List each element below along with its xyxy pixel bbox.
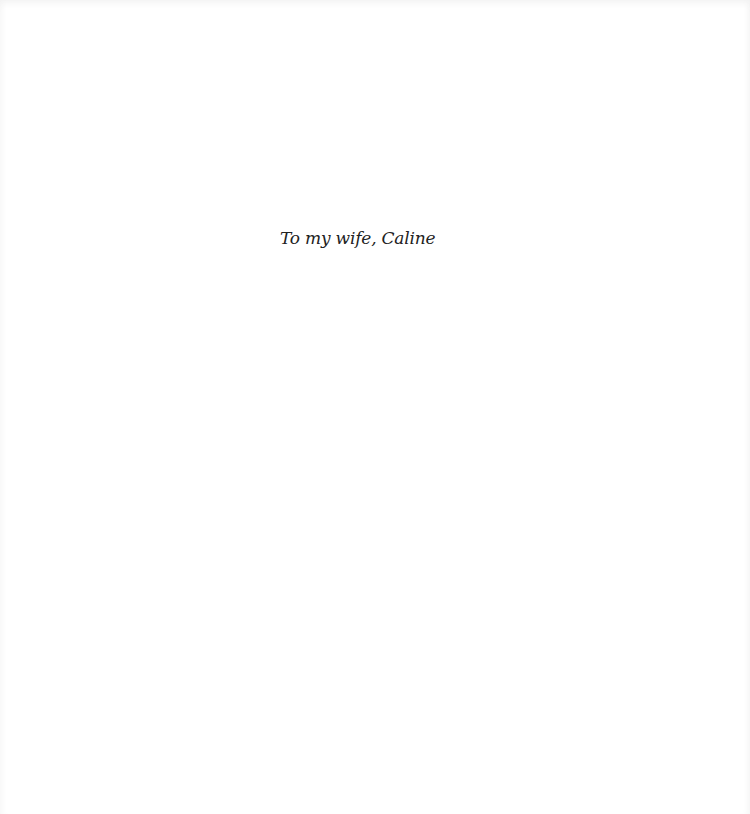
book-page: To my wife, Caline bbox=[0, 0, 750, 814]
dedication-text: To my wife, Caline bbox=[280, 228, 435, 248]
